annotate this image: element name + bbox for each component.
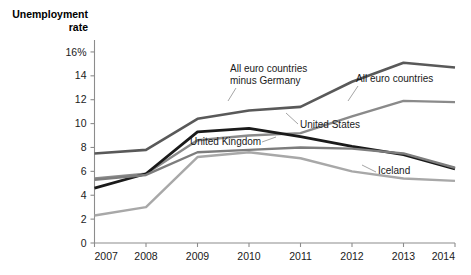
- y-tick-label: 8: [81, 141, 87, 153]
- leader-united-kingdom: [262, 137, 276, 142]
- x-tick-label: 2008: [134, 250, 158, 262]
- y-tick-label: 14: [75, 69, 87, 81]
- y-tick-label: 10: [75, 117, 87, 129]
- chart-canvas: Unemployment rate 0246810121416% 2007200…: [0, 0, 471, 275]
- x-tick-label: 2009: [186, 250, 210, 262]
- x-tick-label: 2010: [237, 250, 261, 262]
- y-axis-ticks: 0246810121416%: [65, 46, 94, 249]
- leader-euro-minus-germany: [228, 88, 236, 101]
- y-tick-label: 6: [81, 165, 87, 177]
- x-tick-label: 2012: [340, 250, 364, 262]
- x-tick-label: 2011: [289, 250, 312, 262]
- leader-all-euro-countries: [348, 86, 358, 101]
- label-euro-minus-germany-line2: minus Germany: [230, 75, 301, 86]
- label-united-kingdom: United Kingdom: [190, 136, 261, 147]
- series-line-iceland: [95, 152, 456, 215]
- label-united-states: United States: [300, 119, 360, 130]
- label-iceland: Iceland: [378, 165, 410, 176]
- y-tick-label: 16%: [65, 46, 86, 58]
- y-axis-title-line1: Unemployment: [12, 8, 88, 20]
- y-tick-label: 4: [81, 189, 87, 201]
- unemployment-rate-line-chart: Unemployment rate 0246810121416% 2007200…: [0, 0, 471, 275]
- x-tick-label: 2007: [95, 250, 119, 262]
- x-tick-label: 2014: [432, 250, 456, 262]
- label-euro-minus-germany-line1: All euro countries: [230, 63, 307, 74]
- x-axis-ticks: 20072008200920102011201220132014: [95, 243, 456, 262]
- y-tick-label: 12: [75, 93, 87, 105]
- y-tick-label: 2: [81, 213, 87, 225]
- leader-united-states: [286, 113, 298, 124]
- leader-iceland: [362, 165, 376, 172]
- y-tick-label: 0: [81, 237, 87, 249]
- label-all-euro-countries: All euro countries: [356, 73, 433, 84]
- y-axis-title-line2: rate: [69, 21, 88, 33]
- x-tick-label: 2013: [392, 250, 416, 262]
- series-labels-group: All euro countriesminus GermanyAll euro …: [190, 63, 433, 176]
